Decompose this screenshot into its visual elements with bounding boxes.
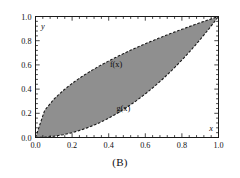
x-tick-label: 0.0 xyxy=(30,141,40,150)
y-tick-label: 0.0 xyxy=(21,134,31,143)
x-tick-label: 1.0 xyxy=(213,141,223,150)
y-tick-label: 0.4 xyxy=(21,85,31,94)
figure-panel: 0.00.20.40.60.81.0 0.00.20.40.60.81.0 y … xyxy=(0,0,240,178)
y-axis-label: y xyxy=(40,22,45,31)
y-tick-label: 0.2 xyxy=(21,109,31,118)
figure-caption: (B) xyxy=(0,156,240,168)
x-axis-label: x xyxy=(208,124,213,133)
y-tick-label: 0.8 xyxy=(21,37,31,46)
x-tick-label: 0.2 xyxy=(67,141,77,150)
y-tick-label: 0.6 xyxy=(21,61,31,70)
curve-label-fx: f(x) xyxy=(110,60,123,69)
x-tick-label: 0.8 xyxy=(177,141,187,150)
x-tick-label: 0.4 xyxy=(104,141,114,150)
x-tick-label: 0.6 xyxy=(140,141,150,150)
y-tick-label: 1.0 xyxy=(21,13,31,22)
plot-area: 0.00.20.40.60.81.0 0.00.20.40.60.81.0 y … xyxy=(0,0,240,178)
curve-label-gx: g(x) xyxy=(117,104,131,113)
